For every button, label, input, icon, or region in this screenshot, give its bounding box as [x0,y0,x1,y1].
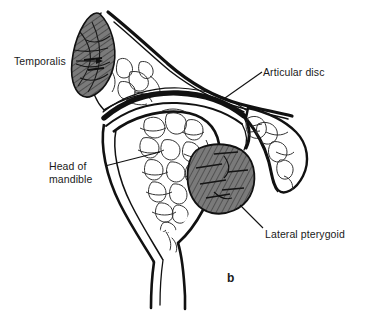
anatomical-figure: Temporalis Articular disc Head ofmandibl… [0,0,365,317]
panel-label: b [227,272,234,285]
label-lateral-pterygoid: Lateral pterygoid [265,228,345,241]
label-head-of-mandible-line1: Head of [49,160,86,172]
lateral-pterygoid-muscle [188,144,255,213]
label-articular-disc: Articular disc [263,66,325,79]
tmj-sagittal-illustration [0,0,365,317]
label-head-of-mandible-line2: mandible [49,173,92,185]
label-temporalis: Temporalis [14,55,66,68]
label-head-of-mandible: Head ofmandible [49,160,92,185]
